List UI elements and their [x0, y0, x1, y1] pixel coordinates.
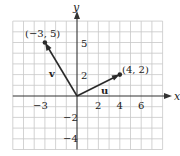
- y-tick-label: 2: [81, 70, 87, 81]
- point-marker: [43, 40, 48, 45]
- vector-v: [43, 40, 77, 96]
- y-tick-label: −2: [63, 112, 78, 123]
- vector-v-label: v: [48, 68, 56, 79]
- x-tick-label: −3: [33, 100, 48, 111]
- point-u-label: (4, 2): [122, 64, 149, 75]
- x-tick-label: 2: [95, 100, 101, 111]
- x-tick-label: 4: [117, 100, 123, 111]
- vector-diagram: x y −3 2 4 6 5 2 −2 −4 v (−3, 5) u (4, 2…: [0, 0, 180, 156]
- x-axis-arrow-icon: [164, 93, 172, 99]
- y-tick-label: −4: [63, 133, 78, 144]
- x-tick-label: 6: [138, 100, 144, 111]
- grid: [13, 21, 163, 149]
- vector-u-label: u: [101, 85, 108, 96]
- x-axis-label: x: [174, 90, 180, 103]
- y-tick-label: 5: [81, 38, 87, 49]
- y-axis-label: y: [72, 1, 80, 14]
- point-v-label: (−3, 5): [25, 28, 60, 39]
